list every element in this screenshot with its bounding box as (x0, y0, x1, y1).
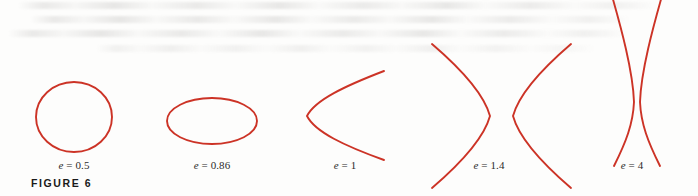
eccentricity-label-e4: e = 4 (592, 159, 672, 171)
eccentricity-label-e05: e = 0.5 (34, 159, 114, 171)
figure-panel: e = 0.5 e = 0.86 e = 1 e = 1.4 e = 4 FIG… (0, 0, 698, 196)
conic-curve-hyperbola-e4-left (608, 0, 634, 166)
conic-curve-ellipse-e086 (167, 98, 257, 144)
eccentricity-label-e1: e = 1 (305, 159, 385, 171)
figure-caption: FIGURE 6 (31, 177, 92, 189)
conic-curve-parabola-e1 (307, 71, 384, 160)
conic-curve-hyperbola-e4-right (640, 0, 666, 166)
eccentricity-label-e14: e = 1.4 (449, 159, 529, 171)
conic-curve-ellipse-e05 (36, 82, 112, 152)
eccentricity-label-e086: e = 0.86 (172, 159, 252, 171)
